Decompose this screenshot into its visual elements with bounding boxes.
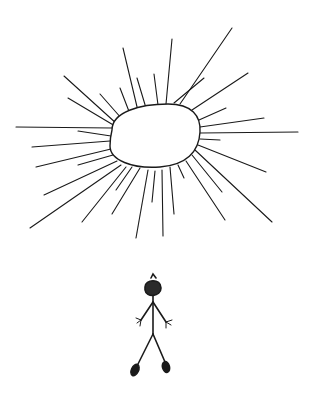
right-foot [161, 361, 171, 373]
head [145, 281, 161, 296]
right-leg [153, 334, 165, 362]
left-leg [137, 334, 153, 366]
left-hand [136, 318, 141, 326]
right-hand [166, 320, 172, 328]
left-foot [129, 363, 140, 377]
left-arm [141, 302, 153, 320]
right-arm [153, 302, 166, 322]
drawing-canvas [0, 0, 313, 397]
stick-figure [129, 274, 172, 377]
head-tuft [151, 274, 156, 278]
sun [16, 28, 298, 238]
sun-disc [110, 104, 200, 167]
